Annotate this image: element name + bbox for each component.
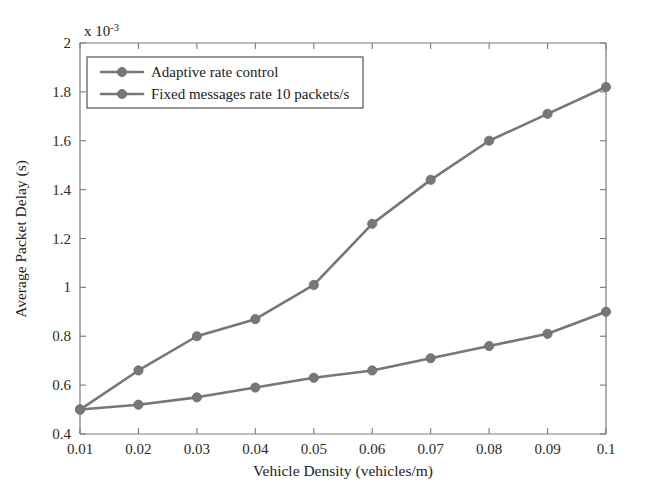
data-point <box>368 219 377 228</box>
y-tick-label: 2 <box>64 35 72 51</box>
data-point <box>192 393 201 402</box>
y-tick-label: 0.6 <box>52 377 71 393</box>
x-axis-tick-labels: 0.010.020.030.040.050.060.070.080.090.1 <box>67 441 616 457</box>
y-tick-label: 1.6 <box>52 133 71 149</box>
data-point <box>251 383 260 392</box>
y-axis-tick-labels: 0.40.60.811.21.41.61.82 <box>52 35 71 442</box>
data-point <box>426 354 435 363</box>
x-tick-label: 0.06 <box>359 441 386 457</box>
legend-marker <box>117 89 126 98</box>
data-point <box>368 366 377 375</box>
data-point <box>251 315 260 324</box>
data-point <box>134 400 143 409</box>
data-point <box>75 405 84 414</box>
y-tick-label: 0.4 <box>52 426 71 442</box>
data-point <box>601 82 610 91</box>
legend-label: Fixed messages rate 10 packets/s <box>151 86 349 102</box>
y-axis-multiplier-exponent: -3 <box>110 22 119 33</box>
data-point <box>134 366 143 375</box>
x-axis-title: Vehicle Density (vehicles/m) <box>253 462 433 480</box>
x-tick-label: 0.07 <box>418 441 445 457</box>
x-tick-label: 0.02 <box>125 441 151 457</box>
legend-label: Adaptive rate control <box>151 64 278 80</box>
series-line-1 <box>80 312 606 410</box>
x-tick-label: 0.01 <box>67 441 93 457</box>
series-2 <box>75 82 610 414</box>
x-tick-label: 0.04 <box>242 441 269 457</box>
data-point <box>426 175 435 184</box>
y-axis-multiplier-base: x 10 <box>84 23 110 39</box>
y-tick-label: 1.2 <box>52 231 71 247</box>
legend: Adaptive rate controlFixed messages rate… <box>87 57 363 108</box>
x-tick-label: 0.05 <box>301 441 327 457</box>
data-point <box>543 109 552 118</box>
data-point <box>485 341 494 350</box>
y-tick-label: 1.4 <box>52 182 71 198</box>
data-point <box>309 280 318 289</box>
data-point <box>485 136 494 145</box>
legend-marker <box>117 67 126 76</box>
chart-figure: 0.010.020.030.040.050.060.070.080.090.1 … <box>0 0 648 502</box>
x-tick-label: 0.03 <box>184 441 210 457</box>
data-point <box>543 329 552 338</box>
series-line-2 <box>80 87 606 410</box>
data-series-group <box>75 82 610 414</box>
x-tick-label: 0.08 <box>476 441 502 457</box>
y-axis-multiplier: x 10-3 <box>84 22 119 39</box>
data-point <box>601 307 610 316</box>
x-tick-label: 0.09 <box>534 441 560 457</box>
y-axis-title: Average Packet Delay (s) <box>12 160 30 318</box>
x-tick-label: 0.1 <box>597 441 616 457</box>
plot-canvas: 0.010.020.030.040.050.060.070.080.090.1 … <box>0 0 648 502</box>
data-point <box>192 332 201 341</box>
y-tick-label: 1 <box>64 279 72 295</box>
data-point <box>309 373 318 382</box>
y-tick-label: 1.8 <box>52 84 71 100</box>
y-tick-label: 0.8 <box>52 328 71 344</box>
